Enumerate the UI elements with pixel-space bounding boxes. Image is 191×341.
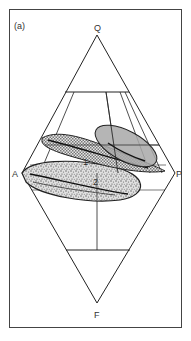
field-label-2: 2 xyxy=(93,177,98,187)
vertex-label-q: Q xyxy=(94,23,101,33)
vertex-label-p: P xyxy=(176,169,182,179)
vertex-label-a: A xyxy=(12,169,18,179)
panel-label: (a) xyxy=(14,21,25,31)
field-label-1: 1 xyxy=(83,157,88,167)
vertex-label-f: F xyxy=(94,310,100,320)
qapf-diagram: (a) Q A P F 1 2 xyxy=(0,0,191,341)
